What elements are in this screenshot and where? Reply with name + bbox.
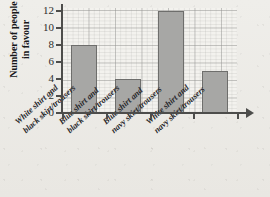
x-tick-mark: [106, 114, 108, 119]
x-axis-arrow-icon: [246, 108, 254, 118]
y-tick-mark: [56, 61, 62, 63]
x-tick-mark: [193, 114, 195, 119]
y-tick-mark: [56, 44, 62, 46]
y-tick-label: 0: [32, 107, 54, 118]
y-tick-label: 10: [32, 22, 54, 33]
x-tick-mark: [62, 114, 64, 119]
y-axis-line: [61, 4, 63, 114]
y-axis-title-line-1: Number of people: [8, 1, 19, 77]
y-tick-label: 4: [32, 73, 54, 84]
x-axis-line: [61, 112, 248, 114]
y-tick-mark: [56, 95, 62, 97]
y-tick-label: 8: [32, 39, 54, 50]
x-tick-mark: [237, 114, 239, 119]
y-tick-label: 6: [32, 56, 54, 67]
y-tick-label: 2: [32, 90, 54, 101]
y-axis-title: Number of people in favour: [8, 0, 31, 92]
bar-chart-figure: 024681012 Number of people in favour Whi…: [0, 0, 270, 197]
x-tick-mark: [150, 114, 152, 119]
y-tick-mark: [56, 10, 62, 12]
y-axis-title-line-2: in favour: [19, 20, 30, 59]
y-tick-mark: [56, 27, 62, 29]
y-tick-mark: [56, 78, 62, 80]
y-tick-label: 12: [32, 5, 54, 16]
